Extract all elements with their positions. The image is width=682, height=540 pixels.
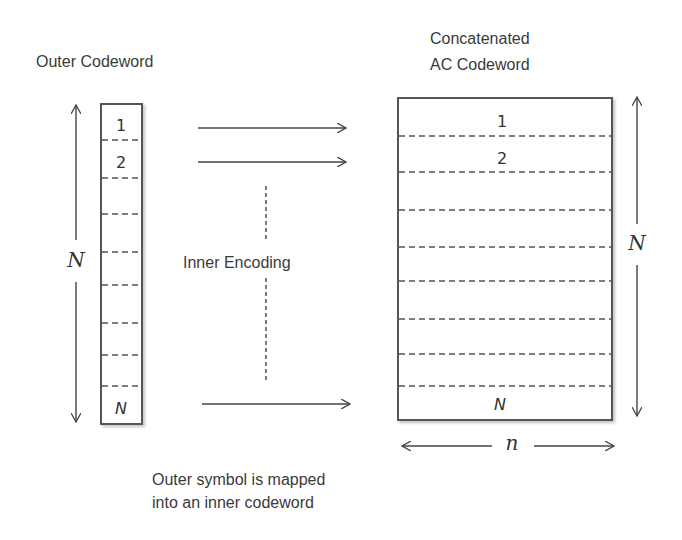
caption-line2: into an inner codeword [152, 494, 314, 511]
outer-symbol-n: N [115, 399, 127, 418]
concatenated-title-line1: Concatenated [430, 30, 530, 47]
concatenated-width-label: n [506, 431, 519, 455]
concatenated-symbol-n: N [494, 395, 506, 414]
concatenated-code-diagram: Outer Codeword Concatenated AC Codeword … [0, 0, 682, 540]
outer-codeword-title: Outer Codeword [36, 53, 153, 70]
concatenated-codeword-box: 1 2 N [398, 98, 612, 420]
outer-symbol-2: 2 [116, 153, 126, 172]
outer-symbol-1: 1 [116, 116, 126, 135]
concatenated-width-arrow: n [402, 431, 614, 455]
concatenated-height-arrow: N [627, 97, 647, 416]
concatenated-symbol-1: 1 [497, 112, 507, 131]
outer-length-label: N [66, 248, 86, 272]
inner-encoding-label: Inner Encoding [183, 254, 291, 271]
outer-box-frame [101, 104, 142, 424]
outer-length-arrow: N [66, 105, 86, 422]
concatenated-symbol-2: 2 [497, 149, 507, 168]
concatenated-height-label: N [627, 231, 647, 255]
outer-codeword-box: 1 2 N [101, 104, 142, 424]
concatenated-title-line2: AC Codeword [430, 56, 530, 73]
concatenated-box-frame [398, 98, 612, 420]
caption-line1: Outer symbol is mapped [152, 471, 325, 488]
